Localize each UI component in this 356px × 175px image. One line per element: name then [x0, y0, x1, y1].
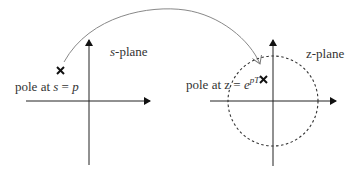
pole-label-prefix: pole at z =: [186, 77, 244, 92]
s-plane-label-rest: -plane: [115, 44, 147, 59]
z-plane-label: z-plane: [306, 47, 344, 60]
z-plane-pole-label: pole at z = epT: [186, 76, 259, 91]
s-plane-pole-marker: [57, 67, 64, 74]
z-plane-pole-marker: [260, 76, 267, 83]
s-plane-label: s-plane: [110, 45, 148, 58]
pole-label-prefix: pole at: [15, 79, 53, 94]
s-plane-pole-label: pole at s = p: [15, 80, 79, 93]
pole-label-exponent: pT: [250, 75, 260, 85]
mapping-arrow: [64, 9, 260, 64]
pole-label-val: p: [72, 79, 79, 94]
pole-label-eq: =: [58, 79, 72, 94]
